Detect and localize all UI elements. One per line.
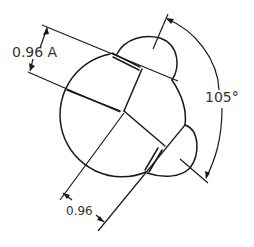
- center-line-up: [124, 69, 142, 111]
- arrowhead-icon: [43, 27, 49, 35]
- right-arc: [172, 80, 185, 125]
- angle-label: 105°: [205, 89, 239, 105]
- angle-arc-bottom: [206, 108, 222, 178]
- extension-line-bottom-right: [98, 125, 185, 231]
- center-line-down: [124, 111, 165, 146]
- extension-line-top: [42, 25, 178, 81]
- angle-extension-top: [153, 14, 168, 49]
- lower-lobe: [147, 125, 197, 176]
- main-circle: [60, 54, 146, 177]
- upper-lobe: [117, 37, 177, 80]
- dimension-label-bottom: 0.96: [66, 204, 93, 218]
- extension-line-bottom: [28, 72, 120, 112]
- technical-drawing: 0.96 A 105° 0.96: [0, 0, 254, 247]
- dimension-label-top: 0.96 A: [12, 44, 58, 60]
- extension-line-bottom-left: [60, 113, 124, 200]
